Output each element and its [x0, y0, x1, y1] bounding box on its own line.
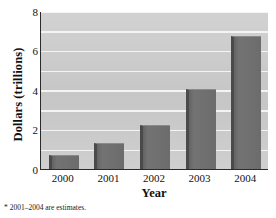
gridline [41, 12, 268, 13]
gridline [41, 31, 268, 33]
chart-footnote: * 2001–2004 are estimates. [4, 203, 86, 212]
x-tick-label: 2000 [40, 172, 86, 185]
bar-fill [234, 37, 261, 169]
x-axis-title: Year [40, 186, 268, 201]
plot-area [40, 12, 268, 170]
bar-fill [97, 144, 124, 169]
y-tick-label: 2 [22, 125, 38, 136]
bar-2000 [49, 155, 79, 169]
y-tick-label: 4 [22, 86, 38, 97]
bar-2004 [231, 36, 261, 169]
bar-fill [52, 156, 79, 169]
y-tick-label: 8 [22, 7, 38, 18]
y-tick-label: 6 [22, 46, 38, 57]
bar-2003 [186, 89, 216, 169]
bar-chart-figure: Dollars (trillions) 02468 20002001200220… [0, 0, 276, 218]
x-tick-label: 2003 [177, 172, 223, 185]
bar-fill [143, 126, 170, 169]
bar-fill [189, 90, 216, 169]
x-tick-label: 2001 [86, 172, 132, 185]
bar-2002 [140, 125, 170, 169]
bar-2001 [94, 143, 124, 169]
y-tick-label: 0 [22, 165, 38, 176]
x-tick-label: 2004 [222, 172, 268, 185]
x-tick-label: 2002 [131, 172, 177, 185]
y-axis-tick-labels: 02468 [22, 0, 38, 218]
